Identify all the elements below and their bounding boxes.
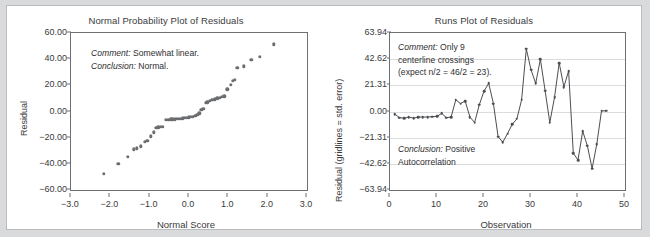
scatter-point [139,145,142,148]
x-axis-label-left: Normal Score [27,219,345,230]
x-tick-label: 40 [572,199,582,209]
scatter-point [233,78,236,81]
scatter-point [152,131,155,134]
data-point-marker [553,96,556,99]
data-point-marker [567,70,570,73]
x-tick-mark [624,193,625,197]
normal-probability-plot-panel: Normal Probability Plot of Residuals Res… [7,6,325,231]
x-tick-label: 10 [431,199,441,209]
scatter-point [161,125,164,128]
scatter-point [272,42,275,45]
x-tick-mark [70,193,71,197]
data-point-marker [422,116,425,119]
data-point-marker [445,116,448,119]
x-tick-label: 1.0 [221,199,234,209]
y-tick-label: 40.00 [44,53,67,63]
y-tick-label: −63.94 [359,184,387,194]
x-axis-label-right: Observation [347,219,650,230]
data-point-marker [577,159,580,162]
data-point-marker [600,110,603,113]
data-point-marker [483,90,486,93]
y-tick-label: 60.00 [44,27,67,37]
y-tick-label: −42.62 [359,158,387,168]
data-point-marker [431,115,434,118]
data-point-marker [412,117,415,120]
data-point-marker [455,99,458,102]
x-tick-label: 0.0 [182,199,195,209]
scatter-point [258,55,261,58]
x-axis-ticks-left: −3.0−2.0−1.00.01.02.03.0 [70,193,308,213]
y-tick-label: −21.31 [359,132,387,142]
scatter-point [225,88,228,91]
y-tick-label: −60.00 [39,184,67,194]
figure-container: Normal Probability Plot of Residuals Res… [6,5,642,230]
data-point-marker [539,58,542,61]
scatter-point [236,66,239,69]
x-tick-label: −2.0 [100,199,118,209]
data-point-marker [572,152,575,155]
scatter-point [116,162,119,165]
data-point-marker [450,116,453,119]
data-point-marker [605,110,608,113]
scatter-point [229,83,232,86]
y-tick-label: −40.00 [39,158,67,168]
scatter-point [242,65,245,68]
y-tick-label: 0.00 [369,106,387,116]
scatter-point [146,139,149,142]
scatter-point [223,95,226,98]
data-point-marker [393,113,396,116]
x-tick-label: −3.0 [61,199,79,209]
data-point-marker [563,86,566,89]
y-tick-label: 20.00 [44,79,67,89]
x-tick-mark [483,193,484,197]
y-tick-label: 42.62 [364,53,387,63]
data-point-marker [440,112,443,115]
data-point-marker [544,89,547,92]
x-tick-label: 20 [478,199,488,209]
annotation-line: Conclusion: Normal. [91,60,199,73]
x-tick-label: 50 [619,199,629,209]
x-tick-mark [266,193,267,197]
data-point-marker [511,123,514,126]
data-point-marker [549,121,552,124]
data-point-marker [534,82,537,85]
chart-title-runs-plot: Runs Plot of Residuals [325,15,643,26]
x-tick-label: −1.0 [140,199,158,209]
x-tick-mark [530,193,531,197]
y-tick-label: 21.31 [364,79,387,89]
data-point-marker [464,100,467,103]
scatter-point [149,135,152,138]
data-point-marker [530,68,533,71]
y-axis-ticks-left: 60.0040.0020.000.00−20.00−40.00−60.00 [11,32,67,191]
y-tick-label: 0.00 [49,106,67,116]
data-point-marker [596,143,599,146]
data-point-marker [506,132,509,135]
data-point-marker [459,102,462,105]
data-point-marker [398,116,401,119]
plot-area-normal-probability: Comment: Somewhat linear.Conclusion: Nor… [70,32,308,191]
data-point-marker [586,145,589,148]
data-point-marker [525,48,528,51]
data-point-marker [520,99,523,102]
data-point-marker [591,167,594,170]
x-tick-label: 30 [525,199,535,209]
y-tick-label: 63.94 [364,27,387,37]
x-tick-mark [389,193,390,197]
data-point-marker [417,116,420,119]
data-point-marker [436,115,439,118]
scatter-point [126,155,129,158]
data-point-marker [403,117,406,120]
annotation-line: Comment: Somewhat linear. [91,47,199,60]
scatter-point [135,147,138,150]
y-axis-ticks-right: 63.9442.6221.310.00−21.31−42.62−63.94 [331,32,387,191]
data-point-marker [516,118,519,121]
x-tick-label: 3.0 [300,199,313,209]
data-point-marker [492,102,495,105]
scatter-point [249,58,252,61]
data-point-marker [478,103,481,106]
data-point-marker [558,62,561,65]
plot-area-runs-plot: Comment: Only 9centerline crossings(expe… [389,32,626,191]
x-tick-mark [306,193,307,197]
x-tick-mark [148,193,149,197]
runs-series-line [390,33,625,190]
